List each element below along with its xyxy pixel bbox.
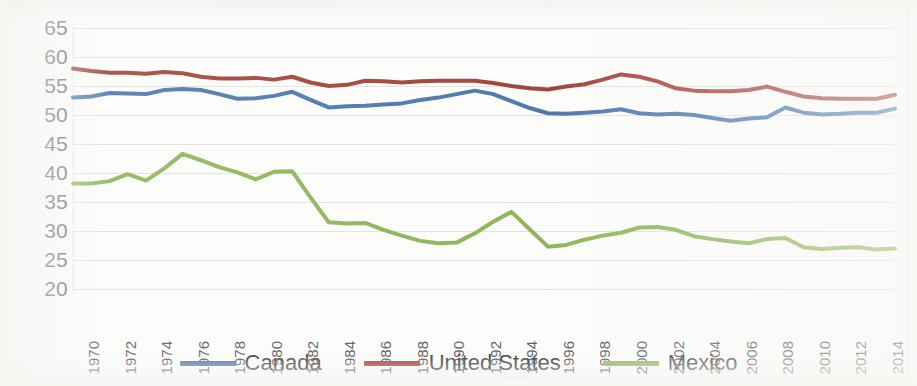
y-tick-label: 20 [16,278,68,299]
y-tick-label: 40 [16,162,68,183]
line-chart: 65605550454035302520 1970197219741976197… [0,0,917,386]
y-tick-label: 45 [16,133,68,154]
legend-label: United States [429,352,561,374]
y-tick-label: 35 [16,191,68,212]
series-lines [73,28,895,289]
y-tick-label: 50 [16,104,68,125]
legend-label: Canada [245,352,322,374]
legend-swatch-icon [180,361,236,366]
legend-swatch-icon [364,361,420,366]
y-tick-label: 55 [16,75,68,96]
y-axis: 65605550454035302520 [8,0,68,386]
chart-legend: CanadaUnited StatesMexico [0,345,917,381]
legend-item-canada[interactable]: Canada [180,352,322,374]
y-tick-label: 65 [16,17,68,38]
y-tick-label: 60 [16,46,68,67]
legend-label: Mexico [668,352,738,374]
series-line-mexico [73,154,895,250]
series-line-canada [73,89,895,121]
x-axis: 1970197219741976197819801982198419861988… [73,293,895,353]
gridline [73,289,895,290]
legend-item-mexico[interactable]: Mexico [603,352,738,374]
y-tick-label: 30 [16,220,68,241]
plot-area [73,28,895,289]
y-tick-label: 25 [16,249,68,270]
legend-swatch-icon [603,361,659,366]
legend-item-united-states[interactable]: United States [364,352,561,374]
